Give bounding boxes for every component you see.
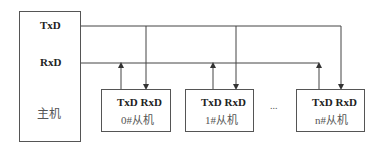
slave-n-pins: TxD RxD: [312, 96, 357, 108]
slave-0-pins: TxD RxD: [117, 96, 162, 108]
master-rxd-label: RxD: [40, 56, 61, 68]
slave-1-pins: TxD RxD: [201, 96, 246, 108]
master-name-label: 主机: [37, 104, 61, 122]
ellipsis: ...: [270, 100, 278, 111]
serial-bus-diagram: TxD RxD 主机 TxD RxD 0#从机 TxD RxD 1#从机 ...…: [0, 0, 382, 151]
slave-0-name: 0#从机: [121, 111, 154, 127]
slave-1-name: 1#从机: [205, 111, 238, 127]
slave-n-name: n#从机: [315, 111, 348, 127]
master-txd-label: TxD: [40, 19, 61, 31]
